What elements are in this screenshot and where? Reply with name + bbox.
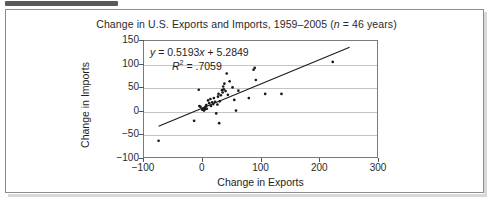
- scatter-point: [207, 99, 210, 102]
- x-tick-mark: [261, 158, 262, 162]
- x-tick-mark: [143, 158, 144, 162]
- top-tab-bar: [5, 1, 118, 6]
- scatter-point: [233, 99, 236, 102]
- scatter-point: [331, 61, 334, 64]
- scatter-point: [228, 80, 231, 83]
- x-tick-mark: [378, 158, 379, 162]
- scatter-point: [214, 100, 217, 103]
- scatter-point: [227, 93, 230, 96]
- y-tick-label: 150: [99, 35, 139, 45]
- y-tick-mark: [139, 64, 144, 65]
- scatter-point: [212, 103, 215, 106]
- scatter-point: [235, 109, 238, 112]
- figure-root: Change in U.S. Exports and Imports, 1959…: [0, 0, 493, 205]
- x-tick-label: 100: [231, 162, 291, 173]
- scatter-point: [255, 79, 258, 82]
- eq-var-y: y: [150, 46, 155, 58]
- scatter-point: [209, 98, 212, 101]
- scatter-point: [217, 95, 220, 98]
- scatter-point: [208, 102, 211, 105]
- y-tick-mark: [139, 111, 144, 112]
- y-axis-title: Change in Imports: [79, 15, 91, 195]
- eq-var-R: R: [172, 60, 180, 72]
- x-tick-label: 300: [348, 162, 408, 173]
- scatter-point: [253, 67, 256, 70]
- scatter-point: [218, 100, 221, 103]
- y-tick-mark: [139, 40, 144, 41]
- eq-exponent-2: 2: [180, 59, 184, 66]
- x-tick-label: −100: [113, 162, 173, 173]
- scatter-point: [213, 97, 216, 100]
- r-squared-annotation: R2 = .7059: [172, 59, 222, 72]
- y-axis-ticks: −100−50050100150: [97, 40, 139, 158]
- figure-box-shadow-right: [484, 12, 487, 194]
- scatter-point: [199, 106, 202, 109]
- eq-var-x: x: [199, 46, 204, 58]
- scatter-point: [231, 86, 234, 89]
- scatter-point: [237, 89, 240, 92]
- y-tick-label: −50: [99, 129, 139, 139]
- y-tick-label: 50: [99, 82, 139, 92]
- y-tick-mark: [139, 87, 144, 88]
- scatter-point: [222, 85, 225, 88]
- scatter-point: [223, 82, 226, 85]
- scatter-point: [280, 93, 283, 96]
- scatter-point: [248, 97, 251, 100]
- x-axis-ticks: −1000100200300: [143, 162, 378, 176]
- scatter-point: [215, 112, 218, 115]
- scatter-point: [220, 94, 223, 97]
- scatter-point: [205, 104, 208, 107]
- scatter-point: [221, 91, 224, 94]
- scatter-point: [224, 90, 227, 93]
- y-tick-label: 100: [99, 59, 139, 69]
- x-tick-mark: [202, 158, 203, 162]
- x-axis-title: Change in Exports: [143, 176, 378, 188]
- scatter-point: [217, 93, 220, 96]
- x-tick-mark: [319, 158, 320, 162]
- scatter-point: [264, 93, 267, 96]
- x-tick-label: 200: [289, 162, 349, 173]
- scatter-point: [225, 72, 228, 75]
- title-italic-n: n: [334, 18, 340, 30]
- regression-equation-annotation: y = 0.5193x + 5.2849: [150, 46, 249, 58]
- scatter-point: [206, 107, 209, 110]
- scatter-point: [210, 105, 213, 108]
- scatter-point: [218, 122, 221, 125]
- chart-title: Change in U.S. Exports and Imports, 1959…: [0, 18, 493, 30]
- x-tick-label: 0: [172, 162, 232, 173]
- scatter-point: [216, 103, 219, 106]
- scatter-point: [193, 119, 196, 122]
- scatter-point: [197, 88, 200, 91]
- scatter-point: [157, 139, 160, 142]
- y-tick-mark: [139, 134, 144, 135]
- y-tick-label: 0: [99, 106, 139, 116]
